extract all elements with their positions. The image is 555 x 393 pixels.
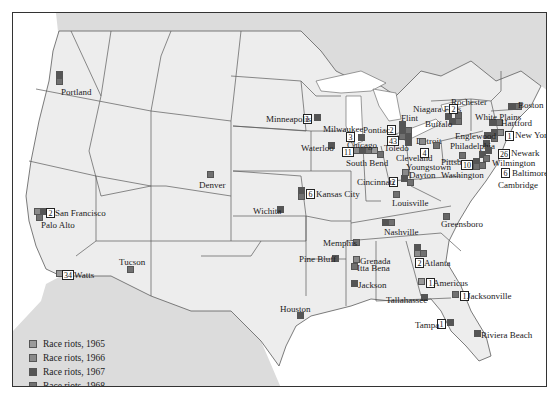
riot-marker bbox=[455, 118, 462, 125]
legend-item-1967: Race riots, 1967 bbox=[29, 366, 105, 378]
map-frame: Portland2San FranciscoPalo Alto34WattsTu… bbox=[12, 12, 547, 387]
city-label: Houston bbox=[280, 305, 311, 314]
city-label: Greensboro bbox=[441, 220, 483, 229]
us-states-basemap bbox=[13, 13, 547, 387]
legend-label: Race riots, 1968 bbox=[43, 381, 105, 387]
riot-marker bbox=[207, 171, 214, 178]
city-label: New York bbox=[515, 131, 547, 140]
city-label: Hartford bbox=[501, 119, 532, 128]
riot-marker bbox=[402, 169, 409, 176]
legend-item-1965: Race riots, 1965 bbox=[29, 338, 105, 350]
deaths-count-box: 34 bbox=[62, 270, 74, 280]
city-label: Cambridge bbox=[498, 181, 538, 190]
legend-swatch-1968 bbox=[29, 382, 37, 387]
deaths-count-box: 10 bbox=[461, 160, 473, 170]
city-label: Milwaukee bbox=[323, 125, 364, 134]
legend-label: Race riots, 1967 bbox=[43, 367, 105, 377]
legend-swatch-1967 bbox=[29, 368, 37, 376]
riot-marker bbox=[351, 280, 358, 287]
city-label: San Francisco bbox=[55, 209, 106, 218]
riot-marker bbox=[485, 147, 492, 154]
city-label: Boston bbox=[518, 101, 544, 110]
city-label: Minneapolis bbox=[266, 115, 311, 124]
riot-marker bbox=[314, 114, 321, 121]
city-label: Washington bbox=[441, 171, 484, 180]
riot-marker bbox=[56, 78, 63, 85]
riot-marker bbox=[420, 250, 427, 257]
city-label: Americus bbox=[433, 279, 468, 288]
city-label: Toledo bbox=[384, 144, 409, 153]
riot-marker bbox=[377, 151, 384, 158]
city-label: Memphis bbox=[323, 239, 357, 248]
city-label: Wilmington bbox=[492, 159, 535, 168]
riot-marker bbox=[483, 155, 490, 162]
riot-marker bbox=[127, 266, 134, 273]
riot-marker bbox=[508, 103, 515, 110]
city-label: Kansas City bbox=[316, 190, 360, 199]
city-label: Wichita bbox=[253, 207, 281, 216]
city-label: Tampa bbox=[415, 321, 439, 330]
riot-marker bbox=[56, 71, 63, 78]
city-label: Riviera Beach bbox=[481, 331, 532, 340]
deaths-count-box: 2 bbox=[46, 208, 55, 218]
city-label: Nashville bbox=[384, 228, 419, 237]
city-label: Buffalo bbox=[425, 120, 452, 129]
riot-marker bbox=[447, 319, 454, 326]
riot-marker bbox=[433, 142, 440, 149]
riot-marker bbox=[393, 191, 400, 198]
city-label: Tallahassee bbox=[386, 296, 427, 305]
city-label: Chicago bbox=[347, 141, 377, 150]
riot-marker bbox=[452, 291, 459, 298]
riot-marker bbox=[497, 129, 504, 136]
city-label: Baltimore bbox=[512, 169, 547, 178]
city-label: Louisville bbox=[392, 199, 429, 208]
city-label: Dayton bbox=[409, 171, 436, 180]
riot-marker bbox=[474, 330, 481, 337]
legend-label: Race riots, 1965 bbox=[43, 339, 105, 349]
riot-marker bbox=[479, 162, 486, 169]
riot-marker bbox=[388, 219, 395, 226]
city-label: Denver bbox=[199, 181, 226, 190]
riot-marker bbox=[353, 256, 360, 263]
city-label: Waterloo bbox=[301, 144, 334, 153]
city-label: Pontiac bbox=[363, 126, 390, 135]
riot-marker bbox=[407, 179, 414, 186]
city-label: Atlanta bbox=[424, 259, 451, 268]
legend-swatch-1965 bbox=[29, 340, 37, 348]
city-label: Jackson bbox=[358, 281, 387, 290]
legend-item-1966: Race riots, 1966 bbox=[29, 352, 105, 364]
legend-label: Race riots, 1966 bbox=[43, 353, 105, 363]
riot-marker bbox=[418, 278, 425, 285]
city-label: Palo Alto bbox=[41, 221, 75, 230]
city-label: Cincinnati bbox=[357, 178, 395, 187]
city-label: Rochester bbox=[451, 98, 487, 107]
city-label: Watts bbox=[74, 271, 94, 280]
city-label: Flint bbox=[401, 114, 418, 123]
city-label: Pine Bluff bbox=[299, 255, 336, 264]
deaths-count-box: 2 bbox=[415, 258, 424, 268]
city-label: Newark bbox=[511, 149, 540, 158]
city-label: Tucson bbox=[119, 258, 145, 267]
legend-swatch-1966 bbox=[29, 354, 37, 362]
city-label: Jacksonville bbox=[467, 292, 512, 301]
riot-marker bbox=[405, 127, 412, 134]
riot-marker bbox=[419, 138, 426, 145]
city-label: Itta Bena bbox=[357, 264, 390, 273]
riot-marker bbox=[298, 193, 305, 200]
city-label: South Bend bbox=[346, 159, 388, 168]
deaths-count-box: 1 bbox=[505, 131, 514, 141]
deaths-count-box: 6 bbox=[306, 189, 315, 199]
deaths-count-box: 6 bbox=[501, 168, 510, 178]
city-label: Portland bbox=[61, 88, 92, 97]
legend-item-1968: Race riots, 1968 bbox=[29, 380, 105, 387]
